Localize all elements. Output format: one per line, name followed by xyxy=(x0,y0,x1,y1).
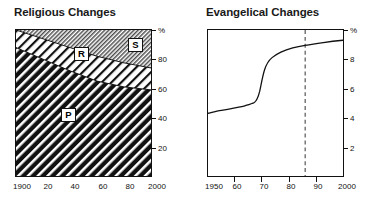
right-ytick-1: 8 xyxy=(344,55,354,64)
right-xtick-label-3: 80 xyxy=(287,182,296,191)
left-ytick-label-0: % xyxy=(158,26,165,35)
area-label-R: R xyxy=(74,47,89,61)
area-label-P: P xyxy=(61,108,76,122)
right-ytick-4: 2 xyxy=(344,144,354,153)
left-xtick-label-2: 40 xyxy=(71,182,80,191)
left-ytick-label-4: 20 xyxy=(158,144,167,153)
right-xtick-label-5: 2000 xyxy=(338,182,356,191)
left-xtick-label-5: 2000 xyxy=(148,182,166,191)
figure-root: Religious Changes xyxy=(0,0,383,201)
right-xtick-label-2: 70 xyxy=(260,182,269,191)
right-xtick-label-1: 60 xyxy=(233,182,242,191)
right-ytick-label-4: 2 xyxy=(350,144,354,153)
evangelical-changes-chart: Evangelical Changes % 8 6 4 2 1950 60 70… xyxy=(192,0,383,201)
left-ytick-2: 60 xyxy=(152,85,167,94)
right-ytick-label-3: 4 xyxy=(350,114,354,123)
left-xtick-label-1: 20 xyxy=(44,182,53,191)
right-xtick-label-0: 1950 xyxy=(205,182,223,191)
right-ytick-3: 4 xyxy=(344,114,354,123)
right-ytick-label-1: 8 xyxy=(350,55,354,64)
left-xtick-label-3: 60 xyxy=(99,182,108,191)
right-ytick-label-0: % xyxy=(350,26,357,35)
left-plot-area: S R P xyxy=(15,29,152,177)
line-series-evangelical xyxy=(208,40,343,113)
right-ytick-label-2: 6 xyxy=(350,85,354,94)
area-label-S: S xyxy=(128,38,143,52)
left-xtick-label-4: 80 xyxy=(126,182,135,191)
left-ytick-label-1: 80 xyxy=(158,55,167,64)
right-line-svg xyxy=(208,30,343,176)
left-ytick-4: 20 xyxy=(152,144,167,153)
left-ytick-1: 80 xyxy=(152,55,167,64)
left-ytick-0: % xyxy=(152,26,165,35)
left-xtick-label-0: 1900 xyxy=(13,182,31,191)
right-xtick-label-4: 90 xyxy=(314,182,323,191)
right-plot-area xyxy=(207,29,344,177)
right-ytick-0: % xyxy=(344,26,357,35)
right-chart-title: Evangelical Changes xyxy=(206,6,319,18)
left-ytick-label-2: 60 xyxy=(158,85,167,94)
left-ytick-label-3: 40 xyxy=(158,114,167,123)
religious-changes-chart: Religious Changes xyxy=(0,0,192,201)
left-ytick-3: 40 xyxy=(152,114,167,123)
right-ytick-2: 6 xyxy=(344,85,354,94)
left-chart-title: Religious Changes xyxy=(14,6,116,18)
